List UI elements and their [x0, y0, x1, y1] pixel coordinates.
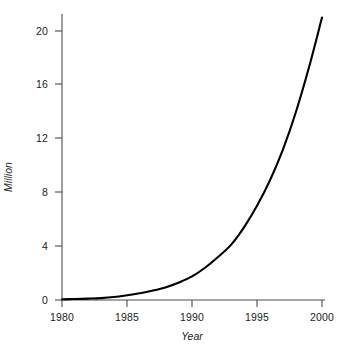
- y-tick-label-4: 4: [32, 240, 48, 252]
- x-tick-label-1995: 1995: [245, 311, 269, 323]
- x-axis-title: Year: [181, 330, 203, 342]
- y-axis-title: Million: [2, 162, 14, 192]
- y-tick-label-16: 16: [26, 78, 48, 90]
- x-tick-label-1985: 1985: [115, 311, 139, 323]
- plot-area: [0, 0, 349, 355]
- data-series-line: [62, 18, 322, 300]
- y-tick-label-8: 8: [32, 186, 48, 198]
- x-tick-label-1980: 1980: [50, 311, 74, 323]
- x-tick-label-1990: 1990: [180, 311, 204, 323]
- y-tick-label-20: 20: [26, 25, 48, 37]
- x-tick-marks: [62, 300, 322, 307]
- x-tick-label-2000: 2000: [310, 311, 334, 323]
- y-tick-label-12: 12: [26, 132, 48, 144]
- y-tick-label-0: 0: [32, 294, 48, 306]
- exponential-growth-chart: 0 4 8 12 16 20 1980 1985 1990 1995 2000 …: [0, 0, 349, 355]
- y-tick-marks: [55, 31, 62, 300]
